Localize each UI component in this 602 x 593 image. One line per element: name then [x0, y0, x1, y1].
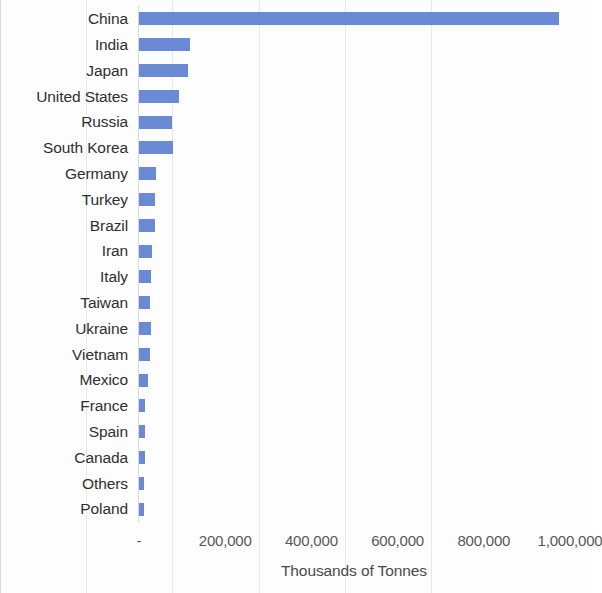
- x-tick-label: 400,000: [285, 532, 338, 549]
- bar-row: South Korea: [0, 135, 593, 161]
- category-label: Mexico: [0, 372, 128, 388]
- bar-row: France: [0, 393, 593, 419]
- category-label: United States: [0, 89, 128, 105]
- category-label: Japan: [0, 63, 128, 79]
- category-label: Iran: [0, 243, 128, 259]
- category-label: Russia: [0, 114, 128, 130]
- bar: [139, 503, 144, 516]
- bar: [139, 38, 190, 51]
- category-label: South Korea: [0, 140, 128, 156]
- category-label: Others: [0, 476, 128, 492]
- bar: [139, 90, 179, 103]
- bar-row: Mexico: [0, 367, 593, 393]
- category-label: India: [0, 37, 128, 53]
- category-label: Germany: [0, 166, 128, 182]
- bar: [139, 348, 150, 361]
- bar: [139, 477, 144, 490]
- category-label: France: [0, 398, 128, 414]
- bar-rows: ChinaIndiaJapanUnited StatesRussiaSouth …: [0, 6, 593, 522]
- bar-row: China: [0, 6, 593, 32]
- bar: [139, 116, 172, 129]
- category-label: Vietnam: [0, 347, 128, 363]
- x-tick-label: 600,000: [371, 532, 424, 549]
- bar-row: Others: [0, 470, 593, 496]
- bar-row: Vietnam: [0, 341, 593, 367]
- bar-row: Japan: [0, 58, 593, 84]
- bar: [139, 64, 188, 77]
- bar: [139, 374, 148, 387]
- bar-row: Germany: [0, 161, 593, 187]
- category-label: Ukraine: [0, 321, 128, 337]
- category-label: Canada: [0, 450, 128, 466]
- bar-row: United States: [0, 83, 593, 109]
- bar-row: Poland: [0, 496, 593, 522]
- bar-row: Italy: [0, 264, 593, 290]
- category-label: China: [0, 11, 128, 27]
- bar: [139, 141, 173, 154]
- bar: [139, 322, 151, 335]
- bar: [139, 270, 151, 283]
- bar: [139, 245, 152, 258]
- x-tick-label: 800,000: [457, 532, 510, 549]
- bar: [139, 219, 155, 232]
- category-label: Turkey: [0, 192, 128, 208]
- category-label: Spain: [0, 424, 128, 440]
- x-axis-tick-labels: -200,000400,000600,000800,0001,000,000: [0, 532, 593, 556]
- bar: [139, 167, 156, 180]
- bar: [139, 425, 145, 438]
- bar-row: Brazil: [0, 212, 593, 238]
- bar: [139, 12, 559, 25]
- bar-row: India: [0, 32, 593, 58]
- bar: [139, 193, 155, 206]
- x-tick-label: -: [137, 532, 142, 549]
- bar-row: Ukraine: [0, 316, 593, 342]
- x-axis-title: Thousands of Tonnes: [138, 562, 570, 580]
- bar: [139, 296, 150, 309]
- bar-row: Taiwan: [0, 290, 593, 316]
- bar: [139, 451, 145, 464]
- bar-row: Canada: [0, 445, 593, 471]
- category-label: Taiwan: [0, 295, 128, 311]
- bar-row: Turkey: [0, 187, 593, 213]
- bar-row: Iran: [0, 238, 593, 264]
- bar-row: Spain: [0, 419, 593, 445]
- bar-row: Russia: [0, 109, 593, 135]
- category-label: Poland: [0, 501, 128, 517]
- x-tick-label: 200,000: [199, 532, 252, 549]
- category-label: Italy: [0, 269, 128, 285]
- category-label: Brazil: [0, 218, 128, 234]
- bar: [139, 399, 145, 412]
- x-tick-label: 1,000,000: [538, 532, 602, 549]
